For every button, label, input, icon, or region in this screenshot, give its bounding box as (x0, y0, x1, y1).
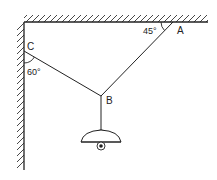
ceiling (24, 15, 208, 22)
angle-arc-C (24, 57, 34, 63)
angle-arc-A (161, 22, 165, 31)
angle-label-A: 45° (143, 26, 157, 36)
angle-label-C: 60° (27, 67, 41, 77)
lamp (81, 130, 121, 151)
label-B: B (106, 95, 113, 106)
label-A: A (177, 25, 184, 36)
diagram-canvas: A C B 45° 60° (0, 0, 217, 180)
label-C: C (27, 41, 34, 52)
wall (17, 22, 24, 170)
string-AB (101, 22, 173, 96)
